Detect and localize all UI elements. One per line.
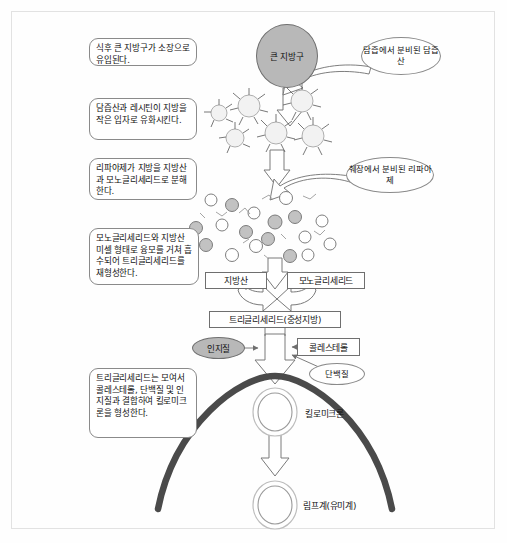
node-bile-acid: 담즙에서 분비된 담즙산 [361,37,441,75]
callout-box-1: 식후 큰 지방구가 소장으로 유입된다. [89,38,197,66]
node-phospholipid: 인지질 [192,337,245,359]
callout-box-5: 트리글리세리드는 모여서 콜레스테롤, 단백질 및 인지질과 결합하여 킬로미크… [89,368,197,438]
diagram-canvas: 식후 큰 지방구가 소장으로 유입된다. 담즙산과 레시틴이 지방을 작은 입자… [0,0,507,543]
callout-box-4: 모노글리세리드와 지방산 미셀 형태로 융모를 거쳐 흡수되어 트리글리세리드를… [89,228,199,285]
label-lymph: 림프계(유미계) [303,499,356,512]
label-chylomicron: 킬로미크론 [305,407,344,420]
callout-box-2: 담즙산과 레시틴이 지방을 작은 입자로 유화시킨다. [89,98,197,140]
diagram-frame [11,11,495,529]
node-triglyceride: 트리글리세리드(중성지방) [209,311,341,328]
node-cholesterol: 콜레스테롤 [297,338,360,356]
node-monoglyceride: 모노글리세리드 [287,272,365,289]
node-lipase: 췌장에서 분비된 리파아제 [346,157,434,193]
callout-box-3: 리파아제가 지방을 지방산과 모노글리세리드로 분해한다. [89,158,197,200]
node-fatty-acid: 지방산 [205,272,267,289]
node-protein: 단백질 [309,363,365,385]
node-fat-globule: 큰 지방구 [256,24,318,88]
